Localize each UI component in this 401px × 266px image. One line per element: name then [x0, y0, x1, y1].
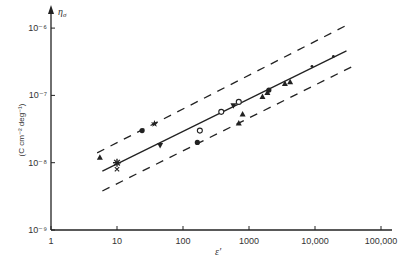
data-point-triangle-up: [259, 94, 265, 100]
x-tick-label: 10,000: [301, 236, 329, 246]
data-point-dot: [332, 55, 335, 58]
data-point-circle-open: [219, 109, 224, 114]
data-point-cross: [115, 167, 119, 171]
fit-line: [102, 51, 346, 171]
y-axis-arrow-icon: [48, 5, 54, 14]
x-tick-label: 1000: [239, 236, 259, 246]
data-point-triangle-up: [282, 81, 288, 87]
data-point-dot: [311, 65, 314, 68]
data-point-circle-open: [197, 128, 202, 133]
bound-line: [102, 65, 354, 191]
data-point-circle-filled: [139, 128, 144, 133]
x-tick-label: 100: [175, 236, 190, 246]
data-point-circle-filled: [195, 140, 200, 145]
y-tick-label: 10⁻⁹: [28, 225, 47, 235]
bound-line: [97, 25, 346, 153]
data-point-triangle-up: [240, 111, 246, 117]
data-point-circle-filled: [266, 87, 271, 92]
x-axis-title: ε′: [215, 246, 222, 257]
y-tick-label: 10⁻⁷: [29, 90, 47, 100]
data-points: [97, 55, 335, 171]
x-tick-label: 1: [48, 236, 53, 246]
data-point-triangle-up: [97, 154, 103, 160]
data-point-star: [151, 120, 158, 127]
x-tick-label: 10: [112, 236, 122, 246]
axes: 110100100010,000100,00010⁻⁹10⁻⁸10⁻⁷10⁻⁶: [28, 5, 397, 246]
y-tick-label: 10⁻⁸: [28, 158, 47, 168]
data-point-asterisk: [113, 159, 121, 167]
x-tick-label: 100,000: [365, 236, 398, 246]
log-log-scatter-chart: 110100100010,000100,00010⁻⁹10⁻⁸10⁻⁷10⁻⁶ …: [0, 0, 401, 266]
axis-labels: ησ ε′ (C cm⁻² deg⁻¹): [17, 6, 222, 257]
data-point-triangle-down: [157, 143, 163, 149]
y-axis-units: (C cm⁻² deg⁻¹): [17, 103, 26, 156]
y-axis-symbol: ησ: [58, 6, 67, 19]
trend-lines: [97, 25, 355, 191]
data-point-circle-open: [236, 99, 241, 104]
y-tick-label: 10⁻⁶: [28, 23, 47, 33]
